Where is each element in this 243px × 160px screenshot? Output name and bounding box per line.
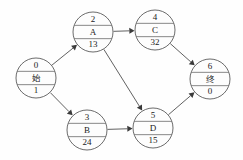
activity-network-diagram: 0始12A134C323B245D156终0 xyxy=(0,0,243,160)
node-duration: 1 xyxy=(34,85,39,95)
diagram-edge xyxy=(170,44,194,66)
diagram-edge xyxy=(169,92,195,114)
diagram-edge xyxy=(52,45,77,65)
arrow-head-icon xyxy=(137,105,142,111)
node-label: 始 xyxy=(32,73,41,83)
node-number: 2 xyxy=(91,14,96,24)
node-number: 6 xyxy=(208,61,213,71)
node-label: D xyxy=(150,123,157,133)
node-duration: 32 xyxy=(151,37,160,47)
diagram-node[interactable]: 6终0 xyxy=(190,59,230,99)
node-number: 0 xyxy=(34,60,39,70)
arrow-head-icon xyxy=(71,45,77,51)
diagram-edge xyxy=(104,49,142,110)
node-number: 3 xyxy=(85,112,90,122)
diagram-edge xyxy=(50,93,72,116)
diagram-node[interactable]: 3B24 xyxy=(67,110,107,150)
node-label: C xyxy=(152,25,158,35)
node-number: 4 xyxy=(153,12,158,22)
diagram-node[interactable]: 5D15 xyxy=(133,108,173,148)
node-number: 5 xyxy=(151,110,156,120)
node-duration: 15 xyxy=(149,135,159,145)
diagram-node[interactable]: 4C32 xyxy=(135,10,175,50)
diagram-node[interactable]: 2A13 xyxy=(73,12,113,52)
node-label: A xyxy=(90,27,97,37)
node-duration: 13 xyxy=(89,39,99,49)
diagram-edge xyxy=(113,28,134,34)
diagram-edge xyxy=(107,126,132,132)
node-duration: 24 xyxy=(83,137,93,147)
diagram-canvas: 0始12A134C323B245D156终0 xyxy=(0,0,243,160)
arrow-head-icon xyxy=(129,28,134,34)
arrow-head-icon xyxy=(127,126,132,132)
node-label: 终 xyxy=(206,74,215,84)
node-label: B xyxy=(84,125,90,135)
node-duration: 0 xyxy=(208,86,213,96)
diagram-node[interactable]: 0始1 xyxy=(16,58,56,98)
